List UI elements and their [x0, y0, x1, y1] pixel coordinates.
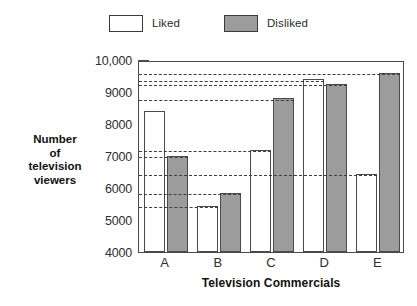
y-tick-label: 8000: [66, 118, 132, 132]
guide-line: [139, 157, 188, 158]
bar-b-liked: [197, 206, 218, 252]
y-tick-label: 10,000: [66, 54, 132, 68]
plot-inner: [139, 62, 403, 252]
y-tick-label: 4000: [66, 246, 132, 260]
x-tick-label-e: E: [373, 255, 382, 270]
bar-e-disliked: [379, 73, 400, 252]
guide-line: [139, 207, 218, 208]
bar-b-disliked: [220, 193, 241, 252]
y-tick-label: 9000: [66, 86, 132, 100]
y-axis-title-line-1: Number: [8, 133, 102, 147]
chart-legend: Liked Disliked: [0, 10, 417, 36]
y-tick-label: 5000: [66, 214, 132, 228]
legend-item-liked: Liked: [109, 15, 180, 32]
x-tick-label-d: D: [319, 255, 328, 270]
guide-line: [139, 74, 400, 75]
bar-d-liked: [303, 79, 324, 252]
guide-line: [139, 85, 347, 86]
white-square-icon: [109, 15, 143, 32]
y-tick-label: 6000: [66, 182, 132, 196]
guide-line: [139, 175, 377, 176]
x-axis-title: Television Commercials: [138, 276, 404, 290]
plot-area: [138, 61, 404, 253]
gray-square-icon: [224, 15, 258, 32]
legend-item-disliked: Disliked: [224, 15, 308, 32]
bar-d-disliked: [326, 84, 347, 252]
guide-line: [139, 194, 241, 195]
legend-label-disliked: Disliked: [267, 17, 308, 29]
x-tick-label-a: A: [160, 255, 169, 270]
x-tick-label-c: C: [266, 255, 275, 270]
guide-line: [139, 151, 271, 152]
guide-line: [139, 100, 294, 101]
y-tick-label: 7000: [66, 150, 132, 164]
guide-line: [139, 81, 324, 82]
bar-c-liked: [250, 150, 271, 252]
bar-e-liked: [356, 174, 377, 252]
bar-a-disliked: [167, 156, 188, 252]
bar-a-liked: [144, 111, 165, 252]
legend-label-liked: Liked: [152, 17, 180, 29]
x-tick-label-b: B: [213, 255, 222, 270]
